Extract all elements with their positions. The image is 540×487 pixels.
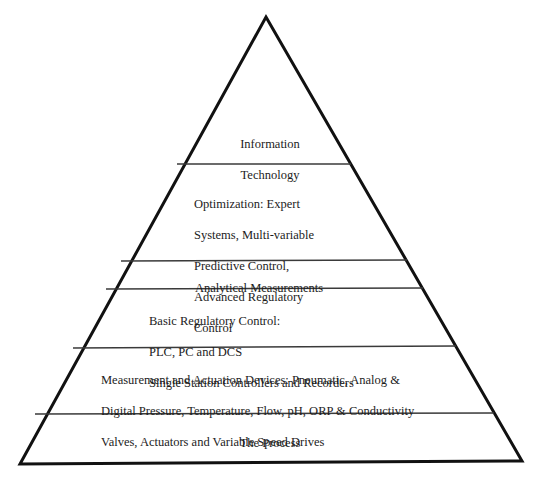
layer-text-line: Information — [200, 137, 340, 153]
layer-text-line: Measurement and Actuation Devices: Pneum… — [101, 373, 491, 389]
layer-text-line: Analytical Measurements — [195, 281, 395, 297]
layer-text-line: Optimization: Expert — [194, 197, 374, 213]
layer-the-process: The Process — [170, 420, 370, 467]
layer-text-line: Systems, Multi-variable — [194, 228, 374, 244]
layer-text-line: Basic Regulatory Control: — [149, 314, 449, 330]
layer-text-line: Digital Pressure, Temperature, Flow, pH,… — [101, 404, 491, 420]
layer-text-line: The Process — [170, 436, 370, 452]
